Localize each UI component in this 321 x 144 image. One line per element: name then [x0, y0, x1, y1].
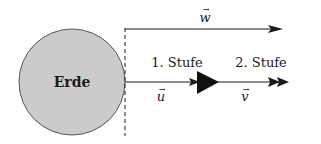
vector-u: u → — [125, 78, 200, 104]
vector-w: w → — [125, 5, 283, 33]
earth: Erde — [19, 29, 125, 135]
vector-v-arrow-accent: → — [243, 85, 250, 94]
earth-label: Erde — [54, 74, 91, 90]
stage-2-label: 2. Stufe — [235, 55, 287, 70]
vector-v: v → — [217, 77, 289, 104]
stage-1-label: 1. Stufe — [151, 55, 203, 70]
rocket-stage-diagram: Erde w → u → 1. Stufe v → 2. Stufe — [0, 0, 321, 144]
vector-w-arrow-accent: → — [203, 5, 210, 14]
stage-1-triangle-icon — [197, 71, 219, 94]
vector-u-arrow-accent: → — [159, 85, 166, 94]
